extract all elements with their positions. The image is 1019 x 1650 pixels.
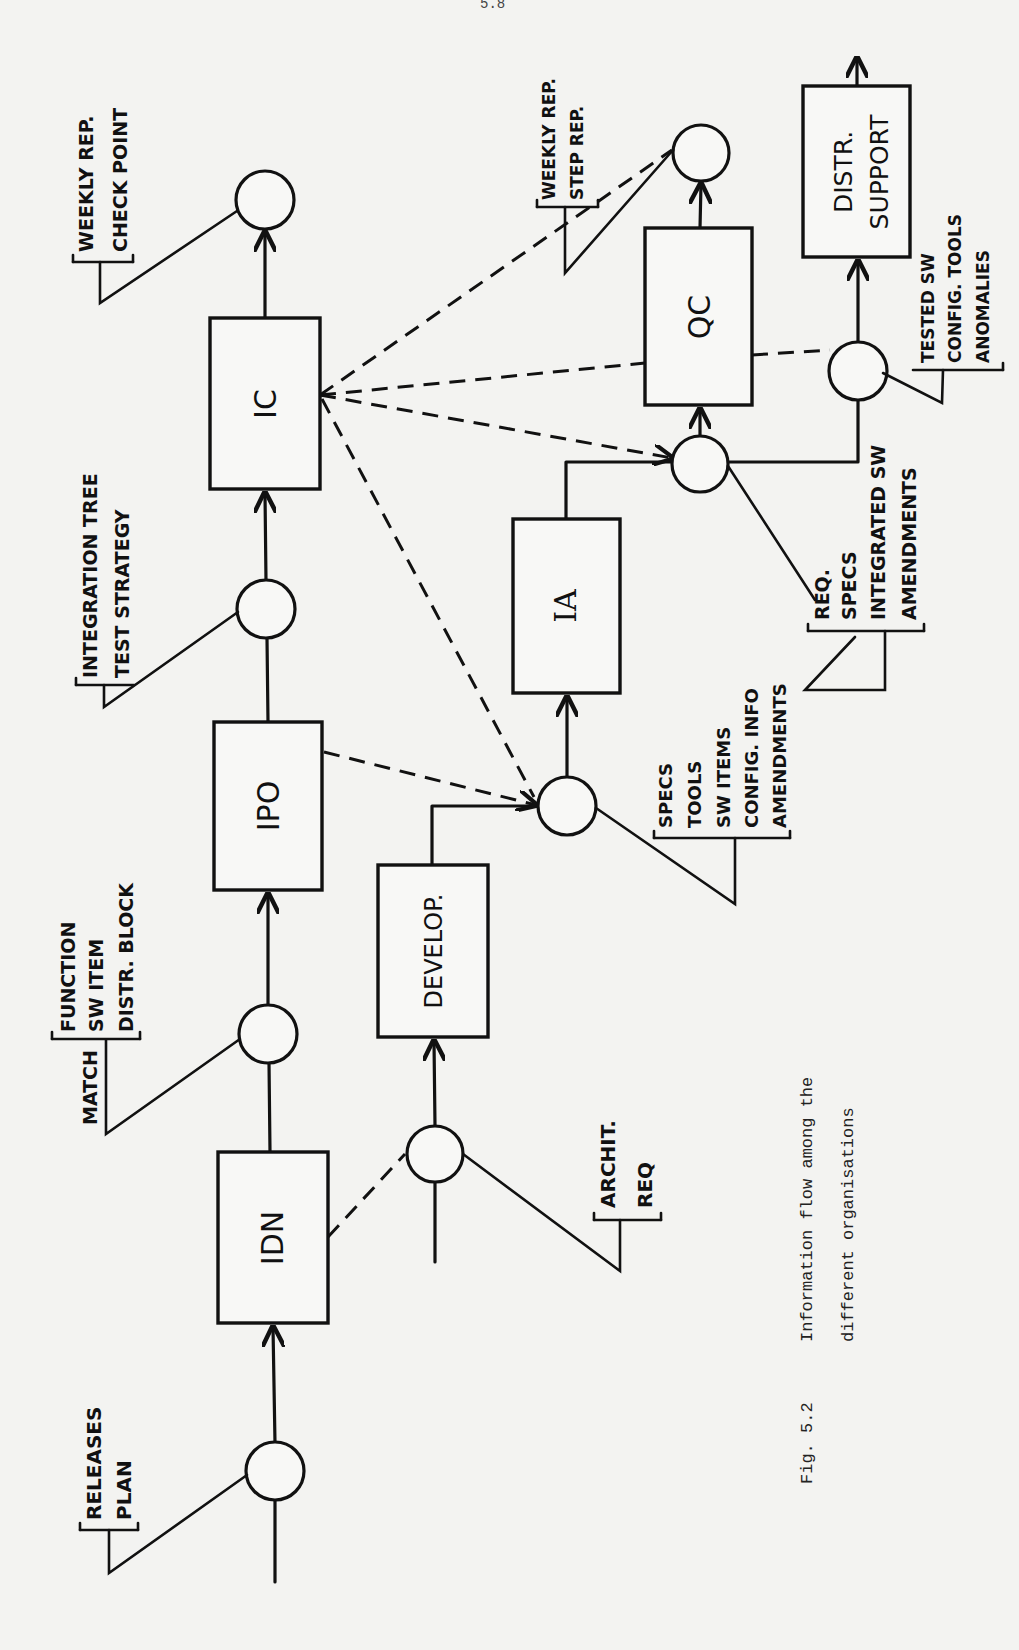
svg-text:REQ: REQ bbox=[633, 1162, 657, 1208]
box-ia-label: IA bbox=[548, 589, 583, 623]
node-match bbox=[239, 1005, 297, 1063]
svg-text:CONFIG. INFO: CONFIG. INFO bbox=[741, 688, 762, 828]
node-archit-req bbox=[407, 1126, 463, 1182]
node-releases-plan bbox=[246, 1442, 304, 1500]
box-develop-label: DEVELOP. bbox=[420, 894, 448, 1009]
box-qc: QC bbox=[645, 228, 752, 405]
svg-text:ANOMALIES: ANOMALIES bbox=[973, 250, 993, 363]
box-ia: IA bbox=[513, 519, 620, 693]
svg-text:SW ITEMS: SW ITEMS bbox=[713, 727, 734, 828]
svg-text:SPECS: SPECS bbox=[655, 763, 676, 828]
box-qc-label: QC bbox=[682, 295, 717, 340]
annotation-integration-tree: INTEGRATION TREE TEST STRATEGY bbox=[76, 473, 238, 707]
svg-text:DISTR. BLOCK: DISTR. BLOCK bbox=[115, 882, 137, 1032]
svg-text:INTEGRATION TREE: INTEGRATION TREE bbox=[79, 473, 101, 678]
svg-text:STEP REP.: STEP REP. bbox=[567, 106, 587, 200]
svg-text:FUNCTION: FUNCTION bbox=[57, 922, 79, 1032]
svg-text:CONFIG. TOOLS: CONFIG. TOOLS bbox=[945, 214, 965, 363]
svg-text:REQ.: REQ. bbox=[811, 569, 833, 620]
svg-text:WEEKLY REP.: WEEKLY REP. bbox=[75, 116, 97, 252]
annotation-weekly-checkpoint: WEEKLY REP. CHECK POINT bbox=[73, 108, 237, 303]
svg-text:RELEASES: RELEASES bbox=[82, 1407, 106, 1520]
box-ipo: IPO bbox=[214, 722, 322, 890]
svg-text:ARCHIT.: ARCHIT. bbox=[596, 1120, 620, 1208]
node-weekly-step bbox=[673, 125, 729, 181]
box-distr-label-2: SUPPORT bbox=[865, 114, 894, 230]
box-distr-support: DISTR. SUPPORT bbox=[803, 86, 910, 257]
svg-text:TEST STRATEGY: TEST STRATEGY bbox=[111, 509, 133, 678]
svg-text:SPECS: SPECS bbox=[838, 551, 860, 620]
annotation-specs-tools: SPECS TOOLS SW ITEMS CONFIG. INFO AMENDM… bbox=[596, 683, 790, 904]
caption-line-2: different organisations bbox=[839, 1107, 858, 1342]
svg-text:TESTED SW: TESTED SW bbox=[918, 253, 938, 363]
annotation-archit-req: ARCHIT. REQ bbox=[463, 1120, 661, 1271]
figure-caption: Fig. 5.2 Information flow among the diff… bbox=[798, 1077, 858, 1484]
svg-text:PLAN: PLAN bbox=[112, 1460, 136, 1520]
box-idn: IDN bbox=[218, 1152, 328, 1323]
annotation-match: MATCH FUNCTION SW ITEM DISTR. BLOCK bbox=[52, 882, 240, 1134]
box-develop: DEVELOP. bbox=[378, 865, 488, 1037]
svg-text:MATCH: MATCH bbox=[79, 1050, 101, 1125]
figure-label: Fig. 5.2 bbox=[798, 1402, 817, 1484]
box-ipo-label: IPO bbox=[251, 781, 286, 832]
box-ic: IC bbox=[210, 318, 320, 489]
page-number: 5.8 bbox=[480, 0, 505, 12]
node-req-specs bbox=[672, 436, 728, 492]
information-flow-diagram: 5.8 IC IPO bbox=[0, 0, 1019, 1650]
svg-text:AMENDMENTS: AMENDMENTS bbox=[898, 467, 920, 620]
svg-text:SW ITEM: SW ITEM bbox=[85, 939, 107, 1032]
svg-text:AMENDMENTS: AMENDMENTS bbox=[769, 683, 790, 828]
box-ic-label: IC bbox=[248, 389, 283, 419]
node-integration-tree bbox=[237, 580, 295, 638]
annotation-releases-plan: RELEASES PLAN bbox=[80, 1407, 247, 1573]
svg-text:TOOLS: TOOLS bbox=[684, 761, 705, 828]
node-specs-tools bbox=[538, 777, 596, 835]
svg-text:CHECK POINT: CHECK POINT bbox=[109, 108, 131, 252]
caption-line-1: Information flow among the bbox=[798, 1077, 817, 1342]
annotation-req-specs: REQ. SPECS INTEGRATED SW AMENDMENTS bbox=[728, 445, 924, 690]
box-idn-label: IDN bbox=[255, 1211, 290, 1265]
node-weekly-checkpoint bbox=[236, 171, 294, 229]
svg-text:INTEGRATED SW: INTEGRATED SW bbox=[867, 445, 889, 620]
box-distr-label-1: DISTR. bbox=[829, 131, 858, 213]
svg-text:WEEKLY REP.: WEEKLY REP. bbox=[539, 78, 559, 200]
node-tested-sw bbox=[829, 342, 887, 400]
